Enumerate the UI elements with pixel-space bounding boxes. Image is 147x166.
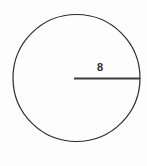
diagram-canvas bbox=[0, 0, 147, 166]
circle-radius-diagram: 8 bbox=[0, 0, 147, 166]
radius-length-label: 8 bbox=[97, 62, 103, 73]
